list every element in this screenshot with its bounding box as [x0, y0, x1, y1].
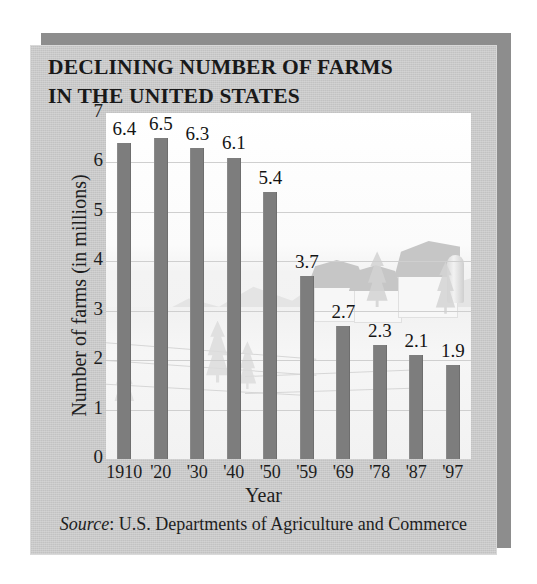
source-note: Source: U.S. Departments of Agriculture … — [31, 514, 496, 535]
x-axis-tick-label: 1910 — [106, 462, 142, 483]
source-separator: : — [109, 514, 119, 534]
y-axis-tick-label: 5 — [94, 199, 104, 221]
bar — [154, 138, 168, 459]
bar-value-label: 6.5 — [149, 113, 173, 135]
bar — [117, 143, 131, 459]
x-axis-tick-label: '97 — [442, 462, 463, 483]
x-axis-tick-label: '69 — [333, 462, 354, 483]
chart-title: DECLINING NUMBER OF FARMS IN THE UNITED … — [48, 53, 468, 110]
source-text: U.S. Departments of Agriculture and Comm… — [119, 514, 467, 534]
x-axis-tick-label: '40 — [223, 462, 244, 483]
figure-scene: DECLINING NUMBER OF FARMS IN THE UNITED … — [0, 0, 537, 584]
bar — [263, 192, 277, 459]
bar-value-label: 6.1 — [222, 132, 246, 154]
bar — [446, 365, 460, 459]
y-axis-tick-labels: 01234567 — [83, 111, 103, 459]
x-axis-tick-label: '78 — [369, 462, 390, 483]
bar-value-label: 2.3 — [368, 320, 392, 342]
y-axis-tick-label: 0 — [94, 446, 104, 468]
y-axis-tick-label: 7 — [94, 100, 104, 122]
bar-value-label: 2.7 — [331, 301, 355, 323]
plot-area: 6.46.56.36.15.43.72.72.32.11.9 — [106, 113, 471, 459]
y-axis-tick-label: 1 — [94, 397, 104, 419]
y-axis-tick-label: 2 — [94, 347, 104, 369]
y-axis-tick-label: 3 — [94, 298, 104, 320]
x-axis-tick-label: '50 — [260, 462, 281, 483]
bar-value-label: 5.4 — [258, 167, 282, 189]
bar-value-label: 2.1 — [404, 330, 428, 352]
bar — [373, 345, 387, 459]
x-axis-tick-label: '87 — [406, 462, 427, 483]
x-axis-tick-label: '30 — [187, 462, 208, 483]
y-axis-tick-label: 4 — [94, 248, 104, 270]
x-axis-title: Year — [31, 484, 496, 507]
x-axis-tick-label: '20 — [150, 462, 171, 483]
chart-title-line-1: DECLINING NUMBER OF FARMS — [48, 53, 468, 82]
x-axis-tick-label: '59 — [296, 462, 317, 483]
bar-value-label: 6.4 — [112, 118, 136, 140]
chart-title-line-2: IN THE UNITED STATES — [48, 82, 468, 111]
source-label: Source — [60, 514, 109, 534]
bar — [336, 326, 350, 459]
bar-value-label: 1.9 — [441, 340, 465, 362]
x-axis-tick-labels: 1910'20'30'40'50'59'69'78'87'97 — [106, 462, 471, 486]
bar-value-label: 3.7 — [295, 251, 319, 273]
bar-value-label: 6.3 — [185, 123, 209, 145]
bar — [300, 276, 314, 459]
bar — [190, 148, 204, 459]
y-axis-tick-label: 6 — [94, 149, 104, 171]
chart-card: DECLINING NUMBER OF FARMS IN THE UNITED … — [30, 45, 497, 555]
bar — [409, 355, 423, 459]
bar — [227, 158, 241, 460]
